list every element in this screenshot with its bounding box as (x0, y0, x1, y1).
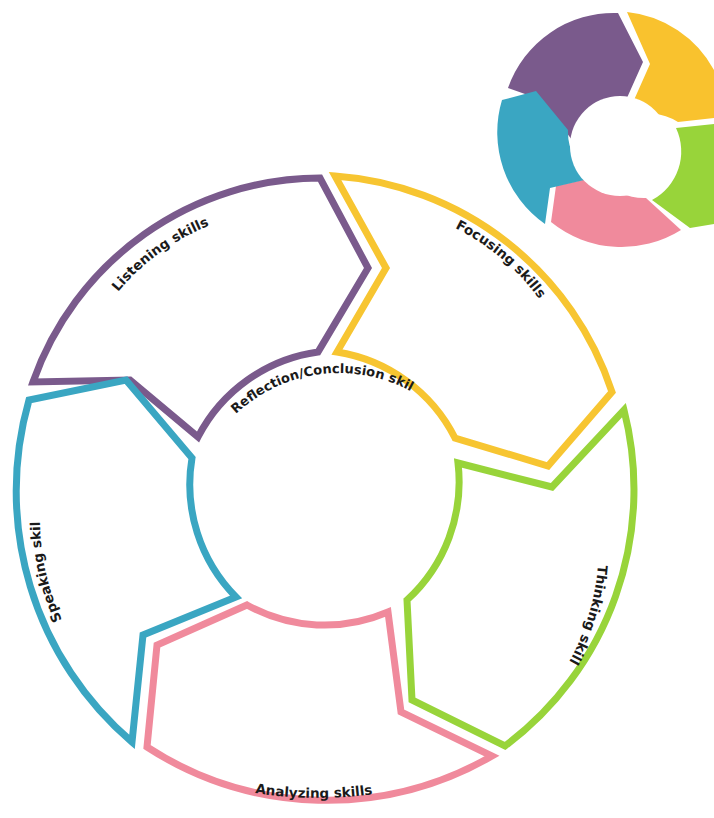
segment-analyzing-label: Analyzing skills (255, 780, 374, 801)
segment-thinking-label: Thinking skills (0, 0, 611, 668)
segment-focusing-outline (335, 176, 612, 466)
segment-analyzing[interactable]: Analyzing skills (147, 605, 492, 801)
segment-focusing[interactable]: Focusing skills (335, 176, 612, 466)
segment-listening[interactable]: Listening skills (33, 178, 368, 437)
segment-analyzing-outline (147, 605, 492, 800)
cycle-diagram: Listening skills Focusing skills Thinkin… (0, 0, 714, 818)
segment-focusing-label: Focusing skills (454, 216, 550, 300)
segment-speaking-label: Speaking skills (0, 0, 65, 625)
